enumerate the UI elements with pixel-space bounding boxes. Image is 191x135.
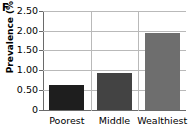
y-axis-tickmark xyxy=(39,31,43,32)
y-axis-tick-label: 1.00 xyxy=(17,65,38,75)
gridline-vertical xyxy=(138,11,139,111)
bar-chart-figure: F Prevalence (%) 00.501.001.502.002.50 P… xyxy=(0,0,191,135)
x-axis-tick-label: Poorest xyxy=(49,115,84,126)
y-axis-tick-labels: 00.501.001.502.002.50 xyxy=(14,0,41,135)
y-axis-tick-label: 2.00 xyxy=(17,26,38,36)
x-axis-tick-labels: PoorestMiddleWealthiest xyxy=(43,115,191,131)
gridline-horizontal xyxy=(43,11,186,12)
bar xyxy=(97,73,132,109)
y-axis-tickmark xyxy=(39,50,43,51)
gridline-horizontal xyxy=(43,31,186,32)
y-axis-tick-label: 0 xyxy=(32,105,38,115)
y-axis-tickmark xyxy=(39,110,43,111)
bar xyxy=(49,85,84,109)
y-axis-tick-label: 1.50 xyxy=(17,45,38,55)
y-axis-line xyxy=(43,11,44,111)
y-axis-tick-label: 0.50 xyxy=(17,85,38,95)
y-axis-tickmark xyxy=(39,70,43,71)
y-axis-tickmark xyxy=(39,90,43,91)
y-axis-tick-label: 2.50 xyxy=(17,6,38,16)
y-axis-tickmark xyxy=(39,11,43,12)
gridline-vertical xyxy=(91,11,92,111)
x-axis-tick-label: Middle xyxy=(99,115,130,126)
plot-area xyxy=(43,11,186,111)
bar xyxy=(145,33,180,110)
x-axis-tick-label: Wealthiest xyxy=(137,115,187,126)
x-axis-line xyxy=(43,110,186,111)
